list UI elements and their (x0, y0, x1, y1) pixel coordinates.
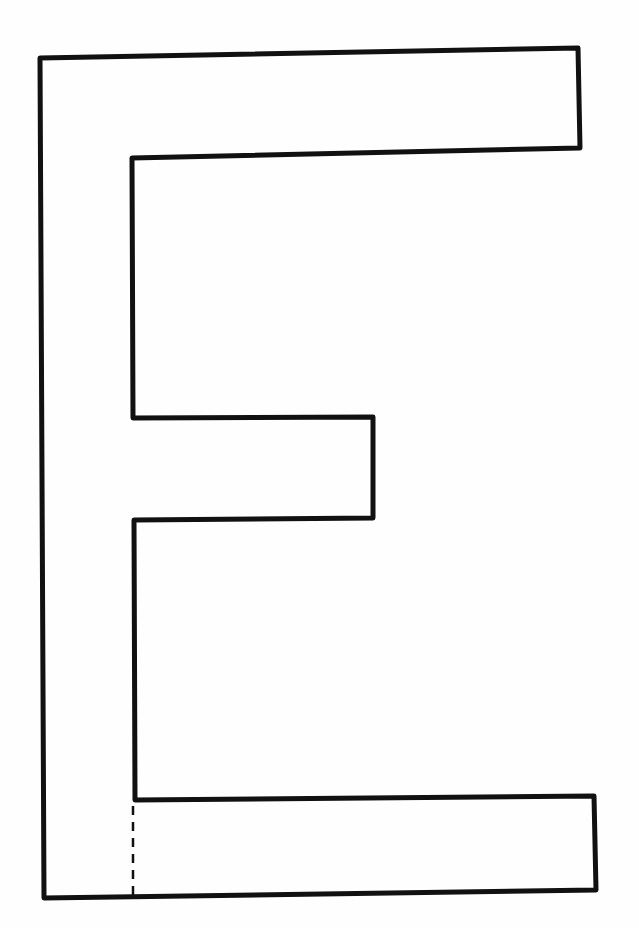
letter-e-outline (0, 0, 639, 928)
background (0, 0, 639, 928)
drawing-canvas (0, 0, 639, 928)
